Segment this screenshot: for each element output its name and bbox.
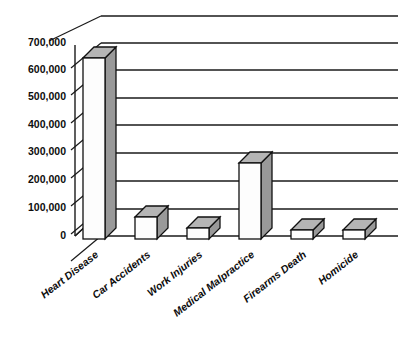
bar-medical-malpractice [239,152,272,239]
y-tick-label: 0 [60,229,66,241]
bar-heart-disease [83,47,116,239]
y-tick-label: 300,000 [28,145,66,157]
y-tick-label: 700,000 [28,36,66,48]
y-tick-label: 200,000 [28,173,66,185]
chart-canvas: 700,000 600,000 500,000 400,000 300,000 … [0,0,408,363]
y-tick-label: 600,000 [28,63,66,75]
y-tick-label: 100,000 [28,201,66,213]
y-tick-label: 500,000 [28,90,66,102]
bar-chart-figure: 700,000 600,000 500,000 400,000 300,000 … [0,0,408,363]
y-tick-label: 400,000 [28,118,66,130]
